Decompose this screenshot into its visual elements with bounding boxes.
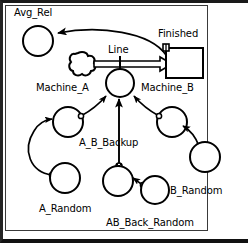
label-b-random: B_Random: [170, 185, 222, 196]
label-machine-b: Machine_B: [141, 82, 194, 93]
node-finished[interactable]: [166, 48, 203, 78]
arc-a-random-to-machine-a: [28, 119, 52, 175]
node-b-back-place[interactable]: [141, 176, 169, 204]
arc-machine-a-to-center: [81, 96, 106, 116]
finished-input-port: [163, 44, 169, 51]
node-b-random[interactable]: [190, 142, 220, 172]
label-line: Line: [108, 44, 128, 55]
node-a-random[interactable]: [50, 163, 80, 193]
arc-marker-machine-a: [78, 113, 83, 118]
node-source-cloud[interactable]: [69, 52, 95, 75]
label-ab-back-random: AB_Back_Random: [106, 217, 194, 228]
label-a-random: A_Random: [39, 203, 91, 214]
node-center-place[interactable]: [106, 69, 134, 97]
node-machine-a[interactable]: [53, 107, 83, 137]
node-avg-rel[interactable]: [23, 26, 53, 56]
diagram-canvas-root: Avg_Rel Finished Line Machine_A Machine_…: [0, 0, 248, 243]
arc-marker-machine-b: [156, 113, 161, 118]
arc-line-to-finished: [94, 56, 172, 71]
label-a-b-backup: A_B_Backup: [79, 137, 138, 148]
diagram-graphics: [0, 0, 248, 243]
label-machine-a: Machine_A: [36, 82, 89, 93]
node-ab-back-random[interactable]: [103, 166, 133, 196]
label-finished: Finished: [158, 28, 198, 39]
node-machine-b[interactable]: [157, 107, 187, 137]
label-avg-rel: Avg_Rel: [14, 7, 52, 18]
arc-machine-b-to-center: [134, 96, 159, 116]
